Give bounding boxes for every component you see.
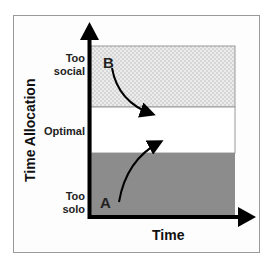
zone-label-too-social-line2: social bbox=[40, 65, 85, 78]
y-axis-arrowhead-icon bbox=[80, 22, 99, 40]
zone-optimal bbox=[91, 107, 235, 153]
zone-label-too-social: Too social bbox=[40, 52, 85, 78]
zone-label-too-solo-line2: solo bbox=[40, 203, 85, 216]
x-axis-arrowhead-icon bbox=[238, 207, 256, 227]
x-axis-label: Time bbox=[152, 227, 184, 243]
zone-label-too-social-line1: Too bbox=[40, 52, 85, 65]
zone-too-solo bbox=[91, 153, 235, 217]
zone-label-too-solo-line1: Too bbox=[40, 190, 85, 203]
zone-label-too-solo: Too solo bbox=[40, 190, 85, 216]
point-label-a: A bbox=[100, 194, 111, 211]
zone-label-optimal: Optimal bbox=[30, 125, 85, 137]
point-label-b: B bbox=[103, 54, 114, 71]
